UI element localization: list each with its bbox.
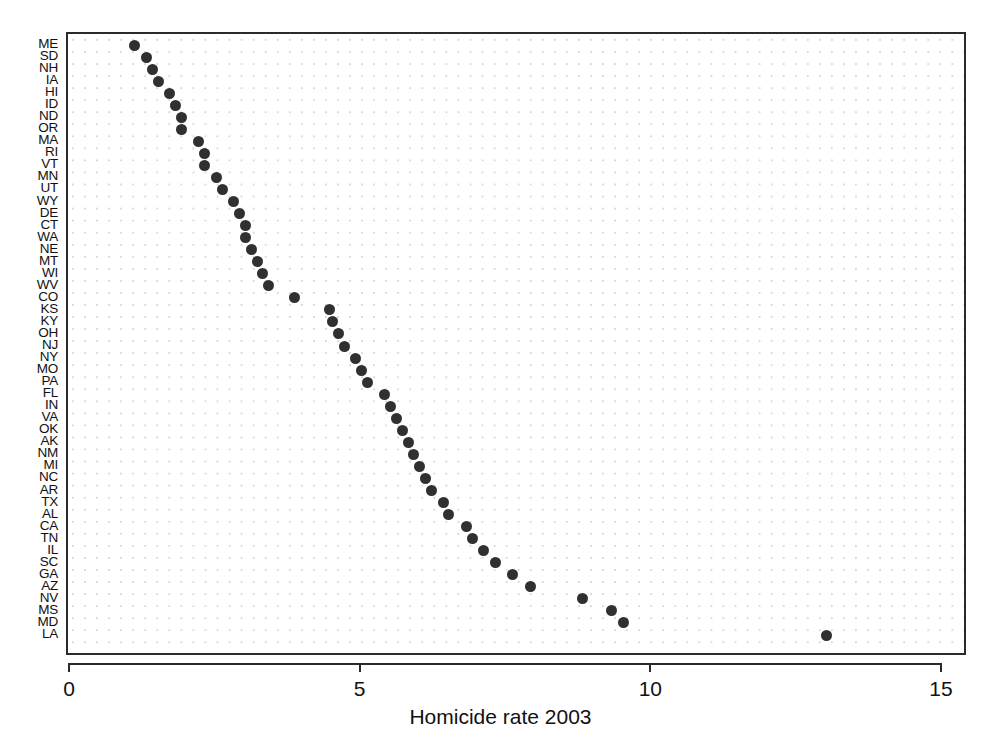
plot-area [66,32,966,655]
data-point [507,569,518,580]
data-point [176,112,187,123]
data-point [176,124,187,135]
data-point [289,292,300,303]
data-point [356,365,367,376]
data-point [141,52,152,63]
data-point [211,172,222,183]
x-axis-tick-label: 0 [63,677,75,701]
data-point [164,88,175,99]
data-point [228,196,239,207]
data-point [391,413,402,424]
data-point [199,148,210,159]
y-axis-category-labels: MESDNHIAHIIDNDORMARIVTMNUTWYDECTWANEMTWI… [0,32,62,655]
data-point [478,545,489,556]
x-axis-tick-label: 15 [929,677,952,701]
x-axis-tick [940,663,942,672]
x-axis-tick-label: 10 [639,677,662,701]
x-axis: 051015 [66,663,966,664]
data-point [577,593,588,604]
x-axis-tick [68,663,70,672]
x-axis-tick-label: 5 [354,677,366,701]
data-point [379,389,390,400]
data-point [414,461,425,472]
data-point [333,328,344,339]
x-axis-title: Homicide rate 2003 [0,705,1001,729]
data-point [257,268,268,279]
data-point [327,316,338,327]
data-point [246,244,257,255]
x-axis-tick [649,663,651,672]
data-point [606,605,617,616]
data-point [397,425,408,436]
data-point [362,377,373,388]
data-point [490,557,501,568]
data-point [408,449,419,460]
dotplot-figure: MESDNHIAHIIDNDORMARIVTMNUTWYDECTWANEMTWI… [0,0,1001,756]
data-point [147,64,158,75]
data-point [426,485,437,496]
y-axis-tick-label: LA [42,627,58,640]
data-point [193,136,204,147]
data-point [170,100,181,111]
data-point [240,220,251,231]
data-point [350,353,361,364]
x-axis-tick [359,663,361,672]
x-axis-line [69,663,941,665]
data-point [240,232,251,243]
data-point [403,437,414,448]
data-point [153,76,164,87]
data-point [263,280,274,291]
data-point [199,160,210,171]
data-point [252,256,263,267]
data-point [438,497,449,508]
data-point [217,184,228,195]
data-point [385,401,396,412]
data-point [234,208,245,219]
data-point [324,304,335,315]
data-point [525,581,536,592]
data-point [461,521,472,532]
data-point [339,341,350,352]
data-point [467,533,478,544]
data-point [420,473,431,484]
data-point [821,630,832,641]
data-point [618,617,629,628]
data-point [129,40,140,51]
data-point [443,509,454,520]
